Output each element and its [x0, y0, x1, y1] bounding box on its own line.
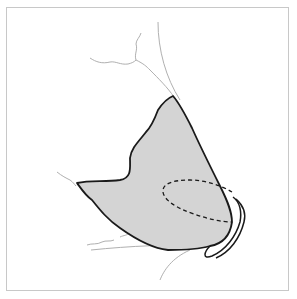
- shaded-region: [77, 96, 232, 250]
- anatomical-diagram: [0, 0, 297, 299]
